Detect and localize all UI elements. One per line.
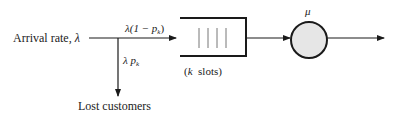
lost-flow-label: λ pk bbox=[122, 54, 140, 68]
service-rate-label: μ bbox=[304, 5, 311, 17]
server-node bbox=[291, 22, 327, 58]
lost-customers-label: Lost customers bbox=[78, 99, 151, 113]
admitted-flow-label: λ(1 − pk) bbox=[124, 22, 164, 36]
queueing-diagram: Arrival rate, λ λ(1 − pk) λ pk Lost cust… bbox=[0, 0, 397, 117]
queue-buffer bbox=[180, 17, 247, 57]
queue-slots bbox=[199, 28, 226, 48]
arrival-rate-label: Arrival rate, λ bbox=[13, 31, 80, 45]
queue-capacity-label: (k slots) bbox=[184, 65, 222, 78]
